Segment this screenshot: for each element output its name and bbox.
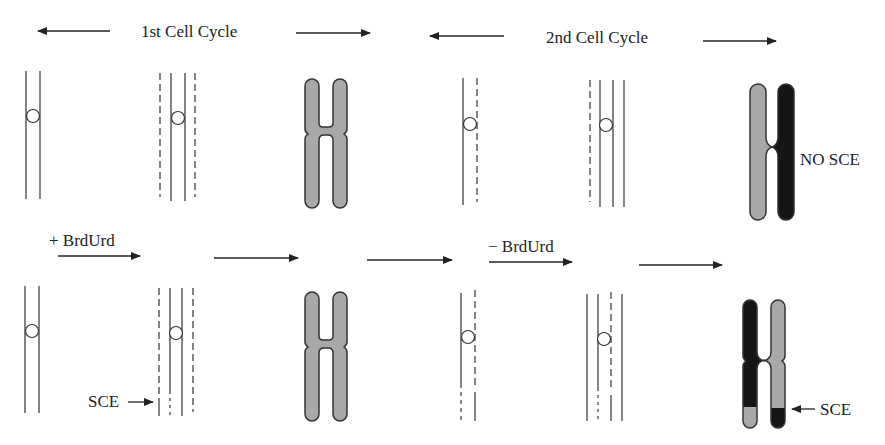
- top-row: [26, 71, 802, 220]
- centromere-icon: [464, 118, 477, 131]
- chromosome-gray-icon: [305, 79, 347, 208]
- dna-replicated-2nd-sce: [587, 292, 622, 421]
- centromere-icon: [462, 331, 475, 344]
- dna-replicated-1st: [160, 73, 195, 201]
- sce-diagram: [0, 0, 885, 445]
- dna-2nd-cycle-sce-start: [461, 290, 475, 421]
- centromere-icon: [172, 112, 185, 125]
- centromere-icon: [170, 327, 183, 340]
- cycle-arrows: [38, 31, 776, 41]
- bottom-row: [25, 286, 789, 438]
- centromere-icon: [600, 119, 613, 132]
- chromosome-gray-icon: [305, 292, 347, 421]
- dna-replicated-2nd: [590, 80, 624, 207]
- chromosome-no-sce-icon: [745, 80, 802, 220]
- dna-replicated-with-sce: [159, 288, 193, 416]
- centromere-icon: [26, 325, 39, 338]
- dna-double-strand: [26, 71, 40, 199]
- centromere-icon: [27, 110, 40, 123]
- chromosome-sce-icon: [740, 295, 789, 438]
- dna-double-strand: [25, 286, 39, 413]
- dna-2nd-cycle-start: [463, 78, 477, 205]
- centromere-icon: [598, 333, 611, 346]
